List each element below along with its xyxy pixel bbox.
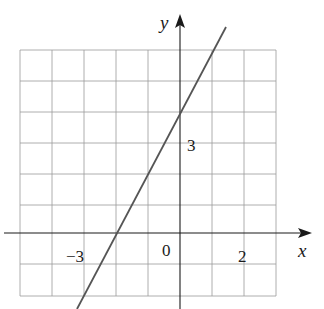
y-tick-label-3: 3	[187, 136, 196, 155]
coordinate-plane: y x −3 0 2 3	[0, 0, 324, 309]
y-axis-label: y	[158, 12, 169, 33]
x-tick-label-2: 2	[238, 247, 247, 266]
x-axis-label: x	[297, 240, 307, 261]
x-tick-label-0: 0	[162, 241, 171, 260]
x-tick-label-neg3: −3	[66, 247, 84, 266]
line-series	[77, 27, 226, 309]
